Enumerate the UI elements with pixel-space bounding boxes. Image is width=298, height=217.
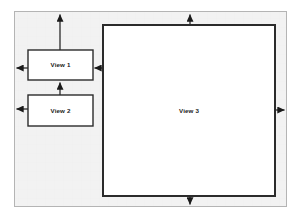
view1-label: View 1 [50,61,70,68]
view3-box[interactable]: View 3 [103,25,275,196]
view2-box[interactable]: View 2 [28,95,93,126]
block-arrow-diagram: View 3 View 1 View 2 [0,0,298,217]
diagram-canvas: View 3 View 1 View 2 [0,0,298,217]
view3-label: View 3 [179,107,199,114]
view2-label: View 2 [50,107,70,114]
view1-box[interactable]: View 1 [28,50,93,80]
